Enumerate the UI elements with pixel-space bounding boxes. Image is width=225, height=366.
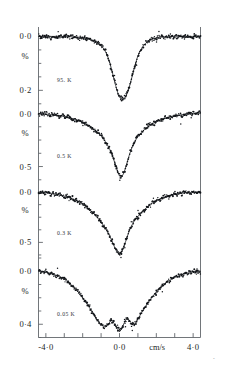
data-point bbox=[98, 132, 100, 134]
data-point bbox=[163, 285, 164, 286]
data-point bbox=[153, 124, 155, 126]
data-point-outlier bbox=[147, 124, 148, 125]
data-point bbox=[66, 279, 67, 280]
data-point bbox=[63, 115, 65, 117]
data-point-outlier bbox=[76, 289, 77, 290]
data-point bbox=[153, 295, 154, 296]
data-point bbox=[153, 40, 154, 41]
fit-curve-panel-95k bbox=[39, 36, 201, 99]
data-point bbox=[126, 92, 128, 94]
data-point bbox=[129, 83, 131, 85]
data-point bbox=[131, 150, 133, 152]
data-point bbox=[67, 37, 69, 39]
data-point-outlier bbox=[86, 38, 87, 39]
data-point bbox=[150, 39, 152, 41]
data-point bbox=[82, 120, 84, 122]
data-point-outlier bbox=[168, 195, 169, 196]
data-point bbox=[159, 199, 160, 200]
data-point bbox=[140, 133, 142, 135]
spectra-plot: 0·00·2%95. K0·00·5%0.5 K0·00·5%0.3 K0·00… bbox=[0, 0, 225, 366]
data-point bbox=[125, 321, 127, 323]
data-point bbox=[141, 49, 143, 51]
data-point-outlier bbox=[89, 304, 90, 305]
data-point bbox=[132, 145, 134, 147]
data-point-outlier bbox=[175, 114, 176, 115]
data-point bbox=[131, 147, 132, 148]
data-point-outlier bbox=[116, 326, 117, 327]
data-point bbox=[44, 111, 46, 113]
data-point bbox=[72, 119, 74, 121]
data-point bbox=[128, 233, 129, 234]
data-point bbox=[72, 34, 74, 36]
data-point bbox=[49, 192, 51, 194]
data-point-outlier bbox=[160, 200, 161, 201]
data-point-outlier bbox=[180, 123, 181, 124]
data-point bbox=[84, 36, 86, 38]
temperature-label-panel-0p5k: 0.5 K bbox=[57, 153, 72, 159]
data-point bbox=[49, 36, 50, 37]
data-point bbox=[193, 191, 195, 193]
data-point bbox=[168, 279, 169, 280]
data-point bbox=[136, 61, 137, 62]
data-point bbox=[150, 299, 152, 301]
fit-curve-panel-0p05k bbox=[39, 271, 201, 331]
data-point bbox=[131, 226, 133, 228]
data-point bbox=[84, 207, 86, 209]
data-point bbox=[154, 36, 155, 37]
data-point bbox=[162, 195, 164, 197]
data-point bbox=[60, 116, 62, 118]
data-point bbox=[89, 38, 91, 40]
data-point bbox=[40, 192, 42, 194]
data-point bbox=[121, 97, 123, 99]
data-point bbox=[94, 129, 95, 130]
data-point bbox=[106, 52, 107, 53]
data-point-outlier bbox=[43, 115, 44, 116]
moessbauer-figure: 0·00·2%95. K0·00·5%0.5 K0·00·5%0.3 K0·00… bbox=[0, 0, 225, 366]
data-point bbox=[124, 171, 126, 173]
data-point bbox=[115, 82, 116, 83]
data-point bbox=[109, 61, 110, 62]
y-unit-label-panel-0p3k: % bbox=[21, 205, 28, 215]
data-point bbox=[111, 240, 113, 242]
data-point bbox=[188, 191, 189, 192]
data-point bbox=[169, 118, 171, 120]
data-point bbox=[182, 116, 183, 117]
data-point-outlier bbox=[126, 94, 127, 95]
data-point bbox=[192, 37, 194, 39]
data-point bbox=[182, 194, 183, 195]
data-point bbox=[87, 39, 88, 40]
data-point bbox=[159, 35, 160, 36]
data-point-outlier bbox=[116, 83, 117, 84]
data-point-outlier bbox=[134, 67, 135, 68]
temperature-label-panel-0p3k: 0.3 K bbox=[57, 230, 72, 236]
data-point-outlier bbox=[120, 257, 121, 258]
data-point bbox=[40, 270, 41, 271]
data-point bbox=[146, 305, 147, 306]
data-point bbox=[98, 42, 100, 44]
data-point bbox=[186, 115, 187, 116]
data-point bbox=[124, 98, 125, 99]
data-point bbox=[111, 155, 113, 157]
data-point-outlier bbox=[101, 47, 102, 48]
data-point bbox=[43, 114, 44, 115]
data-point bbox=[118, 327, 120, 329]
data-point bbox=[95, 40, 97, 42]
data-point bbox=[199, 37, 201, 39]
data-point bbox=[39, 115, 41, 117]
data-point bbox=[139, 316, 141, 318]
data-point-outlier bbox=[196, 273, 197, 274]
data-point bbox=[148, 204, 150, 206]
data-point-outlier bbox=[117, 324, 118, 325]
data-point bbox=[148, 126, 150, 128]
data-point bbox=[142, 44, 143, 45]
data-point bbox=[199, 111, 201, 113]
data-point bbox=[113, 320, 115, 322]
data-point bbox=[66, 116, 68, 118]
data-point bbox=[103, 137, 105, 139]
data-point bbox=[102, 324, 104, 326]
data-point bbox=[179, 276, 181, 278]
data-point bbox=[128, 86, 130, 88]
data-point bbox=[191, 113, 193, 115]
data-point bbox=[185, 190, 186, 191]
data-point bbox=[156, 37, 158, 39]
